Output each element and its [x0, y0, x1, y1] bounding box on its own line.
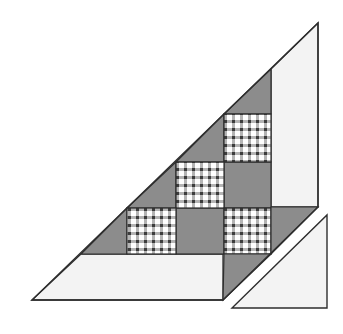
quilt-diagram: [0, 0, 343, 334]
right-light-strip: [271, 23, 318, 207]
plaid-square-middle: [176, 162, 224, 208]
quilt-diagram-svg: [0, 0, 343, 334]
bottom-light-strip: [32, 254, 223, 300]
plaid-square-bottom-right: [224, 208, 271, 254]
dark-square-right: [224, 162, 271, 208]
plaid-square-top: [224, 114, 271, 162]
dark-square-center: [176, 208, 224, 254]
plaid-square-bottom-left: [127, 208, 176, 254]
